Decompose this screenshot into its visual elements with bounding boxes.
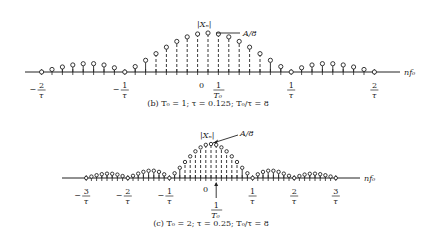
x-axis-label: nf₀	[364, 174, 376, 183]
svg-text:1: 1	[289, 81, 294, 90]
svg-text:−: −	[116, 191, 123, 200]
stem-marker	[137, 172, 140, 175]
x-axis-label: nf₀	[404, 68, 416, 77]
stem-marker	[341, 63, 345, 67]
stem-marker	[230, 155, 233, 158]
origin-label: 0	[203, 185, 208, 194]
stem-marker	[248, 45, 252, 49]
stem-marker	[206, 31, 210, 35]
stem-marker	[362, 67, 366, 71]
stem-marker	[209, 142, 212, 145]
y-axis-label: |Xₙ|	[200, 131, 214, 140]
stem-marker	[147, 169, 150, 172]
tick-label: 3τ	[332, 187, 340, 206]
stem-marker	[268, 58, 272, 62]
stem-marker	[372, 70, 376, 74]
svg-text:τ: τ	[125, 197, 130, 206]
stem-marker	[92, 62, 96, 66]
stem-marker	[163, 173, 166, 176]
tick-label: −1τ	[157, 187, 173, 206]
stem-marker	[60, 65, 64, 69]
stem-marker	[71, 63, 75, 67]
peak-label: A/8	[239, 129, 254, 138]
stem-marker	[241, 166, 244, 169]
stem-marker	[175, 39, 179, 43]
stem-marker	[227, 35, 231, 39]
stem-marker	[102, 63, 106, 67]
stem-marker	[216, 32, 220, 36]
stem-marker	[100, 172, 103, 175]
stem-marker	[168, 176, 171, 179]
svg-text:2: 2	[372, 81, 377, 90]
stem-marker	[235, 160, 238, 163]
y-axis-label: |Xₙ|	[197, 20, 211, 29]
tick-label: 1τ	[249, 187, 257, 206]
stem-marker	[131, 174, 134, 177]
stem-marker	[225, 150, 228, 153]
stem-marker	[237, 39, 241, 43]
stem-marker	[258, 52, 262, 56]
stem-marker	[196, 32, 200, 36]
stem-marker	[256, 173, 259, 176]
f0-label-num: 1	[214, 201, 219, 210]
svg-text:−: −	[157, 191, 164, 200]
stem-marker	[40, 70, 44, 74]
stem-marker	[308, 172, 311, 175]
peak-label: A/8	[242, 29, 257, 38]
stem-marker	[272, 169, 275, 172]
stem-marker	[121, 174, 124, 177]
stem-marker	[246, 172, 249, 175]
stem-marker	[320, 62, 324, 66]
stem-marker	[289, 70, 293, 74]
stem-marker	[298, 174, 301, 177]
svg-text:3: 3	[333, 187, 338, 196]
stem-marker	[112, 66, 116, 70]
svg-text:τ: τ	[292, 197, 297, 206]
svg-text:τ: τ	[122, 91, 127, 100]
stem-marker	[261, 170, 264, 173]
stem-marker	[324, 174, 327, 177]
stem-marker	[85, 176, 88, 179]
stem-marker	[303, 173, 306, 176]
tick-label: 2τ	[290, 187, 298, 206]
tick-label: 1τ	[287, 81, 295, 100]
stem-marker	[215, 143, 218, 146]
svg-text:2: 2	[125, 187, 130, 196]
svg-text:τ: τ	[84, 197, 89, 206]
svg-text:τ: τ	[333, 197, 338, 206]
stem-marker	[334, 176, 337, 179]
line-spectrum-figure: nf₀−2τ−1τ1τ2τ01T₀|Xₙ|A/8(b) T₀ = 1; τ = …	[0, 0, 442, 239]
stem-marker	[142, 170, 145, 173]
stem-marker	[111, 172, 114, 175]
figure-c-spectrum: nf₀−3τ−2τ−1τ1τ2τ3τ01T₀|Xₙ|A/8(c) T₀ = 2;…	[62, 129, 376, 228]
stem-marker	[310, 63, 314, 67]
stem-marker	[220, 146, 223, 149]
svg-text:2: 2	[292, 187, 297, 196]
figure-b-spectrum: nf₀−2τ−1τ1τ2τ01T₀|Xₙ|A/8(b) T₀ = 1; τ = …	[25, 20, 416, 108]
svg-text:1: 1	[122, 81, 127, 90]
stem-marker	[300, 66, 304, 70]
stem-marker	[277, 170, 280, 173]
svg-text:1: 1	[250, 187, 255, 196]
stem-marker	[105, 172, 108, 175]
svg-text:1: 1	[167, 187, 172, 196]
f0-label-num: 1	[216, 81, 221, 90]
stem-marker	[81, 62, 85, 66]
stem-marker	[157, 170, 160, 173]
stem-marker	[144, 58, 148, 62]
stem-marker	[287, 174, 290, 177]
stem-marker	[123, 70, 127, 74]
tick-label: −2τ	[116, 187, 132, 206]
svg-text:τ: τ	[167, 197, 172, 206]
stem-marker	[173, 172, 176, 175]
stem-marker	[293, 176, 296, 179]
stem-marker	[319, 172, 322, 175]
stem-marker	[189, 155, 192, 158]
svg-text:τ: τ	[250, 197, 255, 206]
stem-marker	[204, 143, 207, 146]
stem-marker	[183, 160, 186, 163]
stem-marker	[251, 176, 254, 179]
stem-marker	[185, 35, 189, 39]
stem-marker	[95, 174, 98, 177]
stem-marker	[279, 64, 283, 68]
